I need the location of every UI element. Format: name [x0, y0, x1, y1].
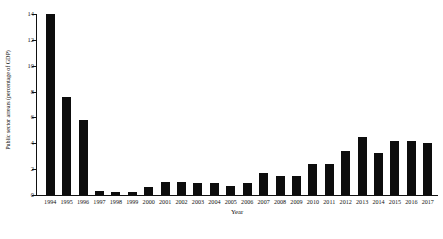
- bar: [423, 143, 432, 195]
- bar: [62, 97, 71, 195]
- bar: [259, 173, 268, 195]
- y-tick-label: 12: [28, 35, 34, 44]
- bar: [276, 176, 285, 195]
- bar: [144, 187, 153, 195]
- y-tick-label: 2: [31, 164, 34, 173]
- bar: [95, 191, 104, 195]
- bar: [325, 164, 334, 195]
- x-axis-line: [36, 195, 438, 196]
- y-tick-label: 8: [31, 87, 34, 96]
- bar: [111, 192, 120, 195]
- x-tick-label: 2017: [416, 198, 440, 207]
- x-axis-title: Year: [36, 207, 438, 217]
- y-tick-label: 6: [31, 112, 34, 121]
- y-axis-title: Public sector arrears (percentage of GDP…: [2, 2, 14, 198]
- bar: [308, 164, 317, 195]
- bar-chart-figure: Public sector arrears (percentage of GDP…: [0, 0, 443, 239]
- bar: [358, 137, 367, 195]
- bar: [226, 186, 235, 195]
- bar: [46, 14, 55, 195]
- bar: [177, 182, 186, 195]
- y-tick-label: 10: [28, 61, 34, 70]
- y-tick-label: 4: [31, 138, 34, 147]
- bar: [243, 183, 252, 195]
- bar: [79, 120, 88, 195]
- plot-area: 02468101214 1994199519961997199819992000…: [36, 14, 438, 196]
- bar: [341, 151, 350, 195]
- bar: [374, 153, 383, 195]
- y-tick-label: 0: [31, 190, 34, 199]
- bar: [407, 141, 416, 195]
- bar: [390, 141, 399, 195]
- bar: [193, 183, 202, 195]
- bar: [210, 183, 219, 195]
- bar: [128, 192, 137, 195]
- y-tick-label: 14: [28, 9, 34, 18]
- bar: [161, 182, 170, 195]
- bar: [292, 176, 301, 195]
